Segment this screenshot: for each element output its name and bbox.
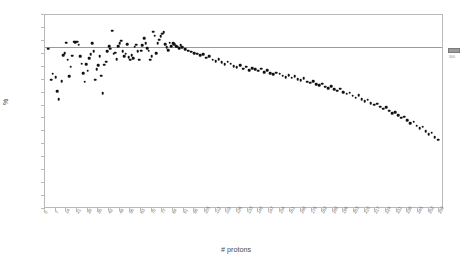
x-axis-tick-label: 14 [64, 208, 71, 215]
data-point [77, 43, 80, 46]
x-axis-tick-label: 91 [182, 208, 189, 215]
data-point [158, 38, 161, 41]
data-point [131, 54, 134, 57]
data-point [421, 126, 424, 129]
data-point [162, 31, 165, 34]
data-point [202, 53, 205, 56]
data-point [57, 98, 60, 101]
x-axis-tick-mark [247, 208, 248, 211]
y-axis-tick-mark [41, 208, 44, 209]
data-point [339, 87, 342, 90]
data-point [143, 37, 146, 40]
data-point [47, 47, 50, 50]
data-point [152, 31, 155, 34]
x-axis-tick-mark [321, 208, 322, 211]
x-axis-tick-mark [417, 208, 418, 211]
data-point [50, 78, 53, 81]
data-point [97, 64, 100, 67]
data-point [217, 58, 220, 61]
data-point [434, 136, 437, 139]
data-point [91, 42, 94, 45]
data-point [65, 42, 68, 45]
x-axis-tick-mark [119, 208, 120, 211]
x-axis-tick-mark [55, 208, 56, 211]
x-axis-tick-mark [353, 208, 354, 211]
x-axis-label: # protons [0, 245, 472, 254]
data-point [109, 47, 112, 50]
x-axis-tick-mark [225, 208, 226, 211]
data-point [115, 58, 118, 61]
data-point [394, 111, 397, 114]
data-point [208, 55, 211, 58]
x-axis-tick-label: 49 [118, 208, 125, 215]
x-axis-tick-mark [65, 208, 66, 211]
data-point [156, 42, 159, 45]
x-axis-tick-label: 70 [150, 208, 157, 215]
x-axis-tick-mark [385, 208, 386, 211]
x-axis-tick-mark [151, 208, 152, 211]
data-point [388, 109, 391, 112]
data-point [144, 42, 147, 45]
data-point [86, 69, 89, 72]
data-point [106, 50, 109, 53]
data-point [397, 114, 400, 117]
data-point [167, 49, 170, 52]
scatter-chart: % 531-1-3-5-7-9-11-13-15-17-19-21-23-25 … [0, 0, 472, 265]
data-point [89, 53, 92, 56]
data-point [376, 102, 379, 105]
legend-label: 300 [449, 55, 455, 59]
data-point [79, 55, 82, 58]
x-axis-tick-mark [172, 208, 173, 211]
x-axis-tick-mark [183, 208, 184, 211]
data-point [321, 82, 324, 85]
x-axis-tick-mark [87, 208, 88, 211]
data-point [94, 78, 97, 81]
data-point [126, 43, 129, 46]
data-point [284, 76, 287, 79]
x-axis-tick-mark [300, 208, 301, 211]
x-axis-tick-label: 84 [171, 208, 178, 215]
x-axis-tick-mark [140, 208, 141, 211]
x-axis-tick-mark [311, 208, 312, 211]
data-point [354, 96, 357, 99]
data-point [229, 62, 232, 65]
data-point [121, 50, 124, 53]
x-axis-tick-label: 98 [192, 208, 199, 215]
data-point [99, 55, 102, 58]
data-point [266, 69, 269, 72]
data-point [95, 68, 98, 71]
x-axis-tick-mark [215, 208, 216, 211]
data-point [100, 74, 103, 77]
data-point [71, 54, 74, 57]
data-point [103, 63, 106, 66]
data-point [80, 62, 83, 65]
data-point [54, 76, 57, 79]
x-axis-tick-mark [161, 208, 162, 211]
data-point [330, 85, 333, 88]
data-point [260, 67, 263, 70]
data-point [431, 131, 434, 134]
x-axis-tick-mark [332, 208, 333, 211]
data-point [102, 92, 105, 95]
x-axis-tick-mark [204, 208, 205, 211]
y-axis: 531-1-3-5-7-9-11-13-15-17-19-21-23-25 [0, 0, 44, 265]
data-point [82, 72, 85, 75]
x-axis-tick-mark [289, 208, 290, 211]
data-point [287, 74, 290, 77]
data-point [437, 139, 440, 142]
x-axis-tick-mark [268, 208, 269, 211]
x-axis-tick-mark [97, 208, 98, 211]
data-point [245, 65, 248, 68]
x-axis-tick-label: 7 [54, 210, 60, 215]
data-point [318, 84, 321, 87]
data-point [114, 51, 117, 54]
data-point [367, 98, 370, 101]
data-point [138, 58, 141, 61]
data-point [111, 29, 114, 32]
data-point [118, 42, 121, 45]
data-point [68, 75, 71, 78]
data-point [124, 53, 127, 56]
x-axis-tick-label: 63 [139, 208, 146, 215]
x-axis-tick-label: 21 [75, 208, 82, 215]
data-point [312, 80, 315, 83]
